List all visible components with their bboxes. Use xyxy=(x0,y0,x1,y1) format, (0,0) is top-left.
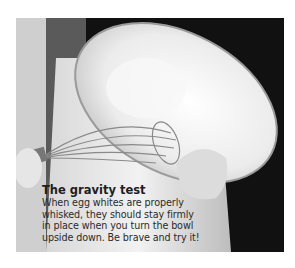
caption-line: whisked, they should stay firmly xyxy=(42,209,194,220)
caption-line: When egg whites are properly xyxy=(42,197,184,208)
photo-caption: The gravity test When egg whites are pro… xyxy=(42,184,242,243)
caption-title: The gravity test xyxy=(42,184,242,197)
caption-line: upside down. Be brave and try it! xyxy=(42,232,199,243)
caption-line: in place when you turn the bowl xyxy=(42,220,193,231)
caption-body: When egg whites are properly whisked, th… xyxy=(42,197,242,243)
